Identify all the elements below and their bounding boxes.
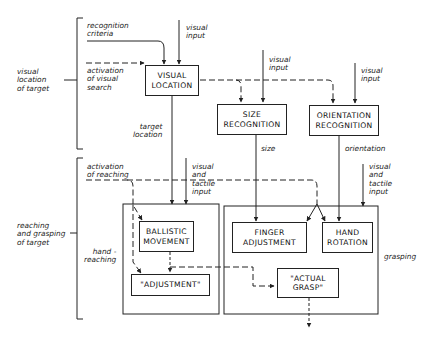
label-target-location: target location <box>133 123 162 140</box>
label-activation-reaching: activation of reaching <box>87 163 129 180</box>
label-visual-input-3: visual input <box>361 67 383 84</box>
label-size: size <box>261 145 275 153</box>
label-visual-tactile-1: visual and tactile input <box>192 163 215 196</box>
box-size-recognition: SIZE RECOGNITION <box>217 104 287 135</box>
box-orientation-recognition: ORIENTATION RECOGNITION <box>309 105 379 136</box>
group-label-grasping: grasping <box>384 253 416 261</box>
box-adjustment: "ADJUSTMENT" <box>131 274 210 296</box>
label-orientation: orientation <box>345 145 385 153</box>
label-recognition-criteria: recognition criteria <box>87 22 129 39</box>
box-visual-location: VISUAL LOCATION <box>145 65 199 96</box>
bracket-reaching-grasping <box>77 158 83 319</box>
box-actual-grasp: "ACTUAL GRASP" <box>277 268 339 298</box>
label-activation-visual-search: activation of visual search <box>87 67 124 92</box>
group-label-visual-location: visual location of target <box>17 68 49 93</box>
label-visual-input-1: visual input <box>186 24 208 41</box>
group-label-hand-reaching: hand - reaching <box>84 248 116 265</box>
label-visual-input-2: visual input <box>269 56 291 73</box>
box-finger-adjustment: FINGER ADJUSTMENT <box>232 222 307 253</box>
group-label-reaching-grasping: reaching and grasping of target <box>17 222 65 247</box>
box-ballistic-movement: BALLISTIC MOVEMENT <box>139 221 194 252</box>
bracket-visual-location <box>77 18 83 149</box>
box-hand-rotation: HAND ROTATION <box>322 222 373 253</box>
label-visual-tactile-2: visual and tactile input <box>369 163 392 196</box>
